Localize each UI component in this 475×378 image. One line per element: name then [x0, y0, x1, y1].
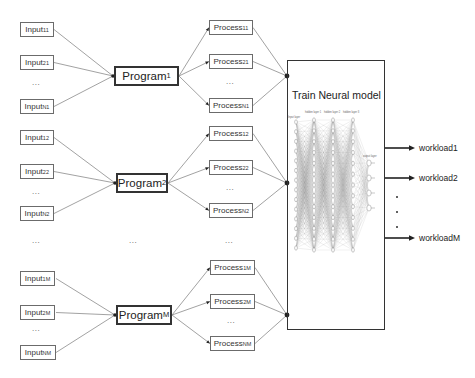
program-label: Program — [119, 309, 163, 321]
input-box: InputNM — [20, 345, 56, 360]
program-box: ProgramM — [116, 305, 172, 325]
output-label-workload1: workload1 — [419, 143, 458, 153]
output-label-workloadM: workloadM — [419, 233, 460, 243]
process-label: Process — [213, 129, 242, 138]
process-box: Process1M — [210, 260, 255, 275]
input-box: Input11 — [20, 22, 54, 37]
input-label: Input — [25, 25, 43, 34]
input-label: Input — [25, 308, 43, 317]
ellipsis: ... — [32, 187, 40, 196]
vertical-ellipsis-dot — [396, 196, 398, 198]
input-box: Input21 — [20, 55, 54, 70]
program-label: Program — [118, 177, 162, 189]
ellipsis: ... — [227, 316, 235, 325]
input-label: Input — [25, 133, 43, 142]
program-label: Program — [122, 70, 166, 82]
process-label: Process — [214, 23, 243, 32]
process-box: ProcessN1 — [209, 98, 253, 113]
process-label: Process — [213, 163, 242, 172]
input-label: Input — [25, 167, 43, 176]
process-box: Process22 — [209, 160, 253, 175]
input-box: InputN1 — [20, 99, 54, 114]
process-label: Process — [214, 263, 243, 272]
ellipsis: ... — [32, 236, 40, 245]
input-label: Input — [25, 58, 43, 67]
process-box: Process21 — [209, 54, 253, 69]
process-box: Process2M — [210, 294, 255, 309]
nn-hidden-layer-label: hidden layer 1 — [305, 111, 321, 114]
process-label: Process — [214, 297, 243, 306]
ellipsis: ... — [226, 77, 234, 86]
model-title: Train Neural model — [292, 89, 381, 101]
process-box: Process12 — [209, 126, 253, 141]
input-box: Input1M — [20, 271, 55, 286]
process-box: ProcessN2 — [209, 203, 253, 218]
process-label: Process — [213, 101, 242, 110]
ellipsis: ... — [225, 236, 233, 245]
input-box: Input22 — [20, 164, 54, 179]
ellipsis: ... — [32, 324, 40, 333]
input-box: InputN2 — [20, 206, 54, 221]
ellipsis: ... — [32, 78, 40, 87]
input-box: Input12 — [20, 130, 54, 145]
ellipsis: ... — [129, 236, 137, 245]
ellipsis: ... — [226, 183, 234, 192]
input-label: Input — [25, 102, 43, 111]
vertical-ellipsis-dot — [396, 211, 398, 213]
nn-input-layer-label: Input layer — [288, 116, 300, 119]
program-box: Program1 — [114, 66, 179, 86]
process-box: Process11 — [209, 20, 253, 35]
output-label-workload2: workload2 — [419, 173, 458, 183]
input-label: Input — [25, 348, 43, 357]
process-label: Process — [213, 206, 242, 215]
process-box: ProcessNM — [210, 336, 255, 351]
program-box: Program2 — [116, 173, 168, 193]
process-label: Process — [213, 57, 242, 66]
nn-output-layer-label: output layer — [363, 155, 377, 158]
workflow-diagram: Input11 Input21 ... InputN1 Program1 Pro… — [0, 0, 475, 378]
process-label: Process — [214, 339, 243, 348]
nn-hidden-layer-label: hidden layer 3 — [343, 111, 359, 114]
input-box: Input2M — [20, 305, 55, 320]
vertical-ellipsis-dot — [396, 226, 398, 228]
input-label: Input — [25, 209, 43, 218]
input-label: Input — [25, 274, 43, 283]
nn-hidden-layer-label: hidden layer 2 — [324, 111, 340, 114]
